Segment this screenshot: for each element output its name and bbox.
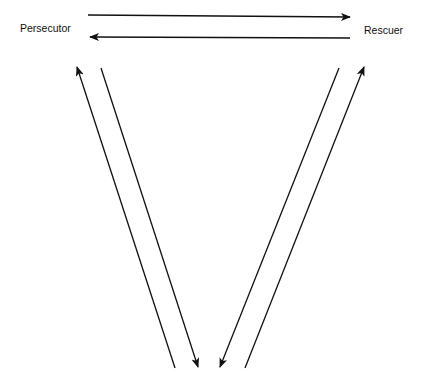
arrow-rescuer-to-victim: [220, 68, 339, 367]
arrow-persecutor-to-rescuer: [88, 15, 350, 17]
arrow-victim-to-rescuer: [245, 67, 364, 368]
arrow-persecutor-to-victim: [101, 68, 198, 367]
arrow-rescuer-to-persecutor: [90, 37, 350, 38]
triangle-arrows: [0, 0, 424, 385]
arrow-victim-to-persecutor: [77, 67, 175, 368]
